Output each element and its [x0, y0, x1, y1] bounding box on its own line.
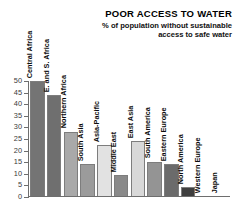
chart-figure: POOR ACCESS TO WATER % of population wit… — [0, 0, 238, 211]
chart-title-block: POOR ACCESS TO WATER % of population wit… — [80, 8, 232, 39]
bar-slot: Asia-Pacific — [96, 81, 113, 196]
y-tick-label: 25 — [14, 135, 22, 142]
bar — [80, 164, 95, 196]
y-tick-label: 45 — [14, 89, 22, 96]
bar-slot: Middle East — [113, 81, 130, 196]
bar — [97, 145, 112, 196]
bar — [47, 95, 62, 196]
bar — [131, 141, 146, 196]
bar-slot: Western Europe — [197, 81, 214, 196]
y-tick-label: 20 — [14, 147, 22, 154]
bar-series: Central AfricaE. and S. AfricaNorthern A… — [29, 81, 230, 196]
y-tick-mark — [24, 197, 29, 198]
bar — [181, 187, 196, 196]
bar — [164, 164, 179, 196]
category-label: Central Africa — [26, 30, 33, 78]
y-tick-label: 50 — [14, 77, 22, 84]
y-tick-label: 5 — [18, 182, 22, 189]
y-tick-label: 15 — [14, 158, 22, 165]
bar-slot: Central Africa — [29, 81, 46, 196]
y-tick-label: 30 — [14, 124, 22, 131]
bar-slot: South Asia — [79, 81, 96, 196]
bar-slot: South America — [146, 81, 163, 196]
bar-slot: Eastern Europe — [163, 81, 180, 196]
bar — [30, 81, 45, 196]
y-tick-label: 35 — [14, 112, 22, 119]
bar — [64, 132, 79, 196]
bar-slot: Northern Africa — [63, 81, 80, 196]
bar — [114, 175, 129, 196]
bar-slot: East Asia — [130, 81, 147, 196]
y-tick-label: 10 — [14, 170, 22, 177]
bar-slot: Japan — [213, 81, 230, 196]
chart-subtitle: % of population without sustainable acce… — [80, 21, 232, 39]
plot-area: 50454035302520151050 Central AfricaE. an… — [28, 81, 230, 197]
y-tick-label: 40 — [14, 100, 22, 107]
bar — [147, 162, 162, 197]
bar-slot: E. and S. Africa — [46, 81, 63, 196]
chart-title: POOR ACCESS TO WATER — [80, 8, 232, 19]
y-tick-label: 0 — [18, 193, 22, 200]
bar-slot: North America — [180, 81, 197, 196]
